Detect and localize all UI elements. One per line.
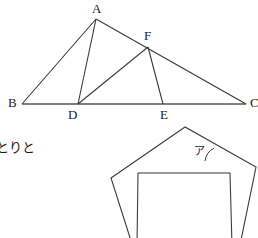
segment-BA bbox=[22, 19, 96, 104]
geometry-figure bbox=[0, 0, 258, 238]
vertex-label-F: F bbox=[144, 29, 151, 42]
vertex-label-E: E bbox=[160, 108, 168, 121]
vertex-label-D: D bbox=[68, 108, 77, 121]
pentagon-square-figure-group bbox=[111, 127, 256, 238]
vertex-label-A: A bbox=[92, 2, 101, 15]
japanese-note-text: とりと bbox=[0, 141, 35, 154]
triangle-figure-group bbox=[22, 19, 246, 104]
segment-AC bbox=[96, 19, 246, 104]
vertex-label-B: B bbox=[8, 96, 17, 109]
angle-label-a: ア bbox=[194, 146, 205, 157]
square-shape bbox=[137, 173, 232, 238]
vertex-label-C: C bbox=[250, 96, 258, 109]
figure-canvas: A B C D E F ア とりと bbox=[0, 0, 258, 238]
